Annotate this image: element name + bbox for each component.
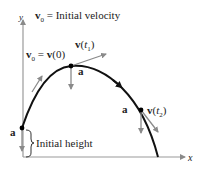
velocity-t1-label: v(t1) bbox=[75, 38, 95, 53]
velocity-vector-initial bbox=[32, 76, 42, 92]
point-t2 bbox=[139, 108, 144, 113]
velocity-vectors bbox=[32, 54, 158, 132]
velocity-t2-label: v(t2) bbox=[147, 104, 167, 119]
y-axis-label: y bbox=[18, 12, 23, 22]
point-start bbox=[20, 126, 25, 131]
initial-velocity-label: v0 = v(0) bbox=[26, 48, 65, 63]
title-label: v0 = Initial velocity bbox=[35, 9, 121, 24]
initial-height-brace bbox=[26, 130, 34, 157]
point-t1 bbox=[69, 64, 74, 69]
acceleration-label-start: a bbox=[10, 126, 16, 138]
x-axis-label: x bbox=[187, 152, 193, 163]
initial-height-label: Initial height bbox=[36, 137, 93, 149]
acceleration-label-t1: a bbox=[78, 65, 84, 77]
velocity-vector-t1 bbox=[71, 54, 106, 66]
projectile-diagram: y x v0 = Initial velocity v0 = v(0) v(t1… bbox=[0, 0, 197, 175]
direction-arrow-icon bbox=[113, 80, 120, 86]
acceleration-label-t2: a bbox=[122, 103, 128, 115]
